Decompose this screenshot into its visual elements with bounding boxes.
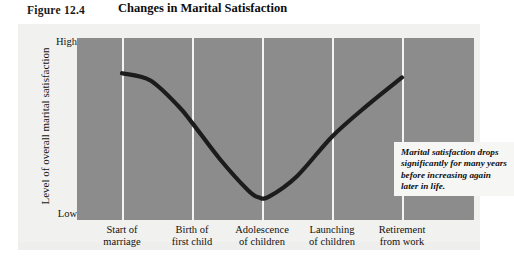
curve-path bbox=[122, 73, 402, 198]
y-axis-title: Level of overall marital satisfaction bbox=[39, 36, 51, 216]
figure-number-text: Figure 12.4 bbox=[27, 4, 85, 16]
y-axis-tick-low: Low bbox=[45, 208, 77, 219]
y-axis-tick-high: High bbox=[45, 36, 77, 47]
x-axis-label-5: Retirement from work bbox=[354, 224, 450, 249]
x-axis-label-5-line1: Retirement bbox=[354, 224, 450, 236]
figure-header: Figure 12.4 Changes in Marital Satisfact… bbox=[0, 0, 497, 24]
x-axis-label-5-line2: from work bbox=[354, 236, 450, 248]
annotation-callout: Marital satisfaction drops significantly… bbox=[394, 142, 514, 196]
figure-title: Changes in Marital Satisfaction bbox=[118, 1, 287, 16]
figure-panel: Level of overall marital satisfaction Hi… bbox=[18, 24, 480, 250]
plot-area: Marital satisfaction drops significantly… bbox=[77, 38, 474, 220]
annotation-text: Marital satisfaction drops significantly… bbox=[401, 147, 508, 193]
figure-number: Figure 12.4 bbox=[27, 4, 85, 16]
